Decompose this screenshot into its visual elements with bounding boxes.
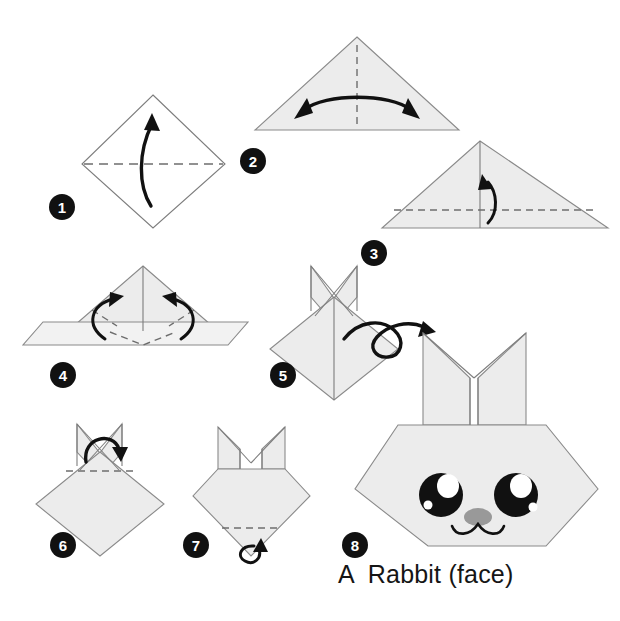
- rabbit-ear-left: [423, 333, 470, 425]
- step-1-paper-square: [82, 95, 225, 228]
- step-3-figure: 3: [361, 141, 608, 266]
- figure-caption: A Rabbit (face): [338, 560, 612, 589]
- origami-diagram: 1 2 3: [0, 0, 620, 621]
- rabbit-ear-right: [478, 333, 526, 425]
- step-2-badge-label: 2: [249, 153, 257, 170]
- rabbit-eye-left-highlight: [437, 474, 459, 498]
- step-1-badge-label: 1: [58, 199, 66, 216]
- step-7-figure: 7: [183, 427, 310, 563]
- step-8-badge-label: 8: [351, 537, 359, 554]
- step-6-figure: 6: [36, 424, 164, 558]
- step-3-badge-label: 3: [370, 245, 378, 262]
- step-6-badge-label: 6: [59, 537, 67, 554]
- rabbit-eye-left: [419, 473, 463, 517]
- rabbit-eye-right-highlight-small: [529, 503, 538, 512]
- step-8-figure: 8: [342, 333, 598, 558]
- step-7-badge-label: 7: [192, 537, 200, 554]
- step-2-figure: 2: [240, 37, 459, 174]
- step-7-head-body: [193, 469, 310, 556]
- step-5-badge-label: 5: [279, 367, 287, 384]
- step-5-turn-over-arrow-head: [418, 321, 436, 337]
- step-4-figure: 4: [23, 266, 248, 388]
- rabbit-eye-right: [494, 473, 538, 517]
- rabbit-eye-left-highlight-small: [424, 501, 433, 510]
- step-1-figure: 1: [49, 95, 225, 228]
- origami-instruction-sheet: 1 2 3: [0, 0, 620, 621]
- step-4-badge-label: 4: [59, 367, 68, 384]
- step-5-figure: 5: [270, 266, 436, 400]
- rabbit-eye-right-highlight: [510, 474, 532, 498]
